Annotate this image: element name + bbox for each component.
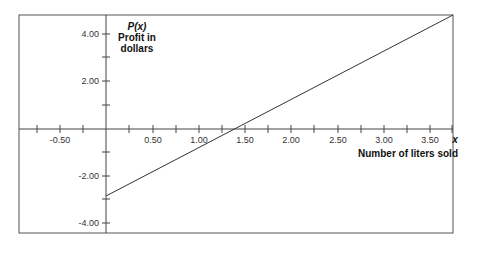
plot-frame (19, 15, 453, 233)
x-tick-label: 2.00 (282, 135, 300, 145)
x-axis-variable: x (451, 134, 458, 145)
y-tick-label: 2.00 (81, 76, 99, 86)
x-tick-label: 2.50 (329, 135, 347, 145)
x-tick-label: 1.00 (190, 135, 208, 145)
y-tick-label: -4.00 (78, 218, 99, 228)
y-axis-variable: P(x) (128, 21, 148, 32)
y-axis-title-line1: Profit in (118, 32, 156, 43)
x-tick-label: 0.50 (144, 135, 162, 145)
profit-chart: -0.50 0.50 1.00 1.50 2.00 2.50 3.00 3.50… (0, 0, 478, 261)
x-tick-label: 3.00 (375, 135, 393, 145)
x-tick-label: 3.50 (421, 135, 439, 145)
x-axis-title: Number of liters sold (358, 148, 458, 159)
y-tick-label: 4.00 (81, 29, 99, 39)
y-axis-title-line2: dollars (121, 43, 154, 54)
x-tick-label: -0.50 (50, 135, 71, 145)
x-tick-label: 1.50 (236, 135, 254, 145)
y-tick-label: -2.00 (78, 171, 99, 181)
